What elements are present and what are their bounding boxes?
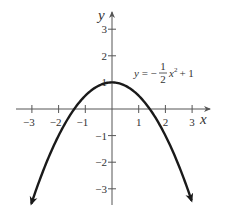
equation-denominator: 2 [160,73,166,85]
equation-prefix: y = − [133,67,157,79]
y-tick-label: 2 [102,50,108,62]
equation-label: y = − 1 2 x2+ 1 [133,60,194,85]
parabola-chart: −3−2−1123321−1−2−3 x y y = − 1 2 x2+ 1 [0,0,225,224]
x-tick-label: −3 [23,116,35,128]
parabola-curve [27,82,192,206]
y-tick-label: −2 [95,156,107,168]
equation-rest: x2+ 1 [168,66,194,79]
y-axis-label: y [96,7,105,23]
y-tick-label: −1 [95,130,107,142]
x-tick-label: 1 [136,116,142,128]
y-tick-label: 3 [102,23,108,35]
axes [16,12,210,205]
y-tick-label: −3 [95,183,107,195]
x-tick-label: 2 [163,116,169,128]
x-tick-label: −2 [50,116,62,128]
equation-numerator: 1 [160,60,166,72]
x-axis-label: x [199,111,207,127]
x-tick-label: 3 [189,116,195,128]
plot-area: −3−2−1123321−1−2−3 x y y = − 1 2 x2+ 1 [0,0,225,224]
x-tick-label: −1 [76,116,88,128]
